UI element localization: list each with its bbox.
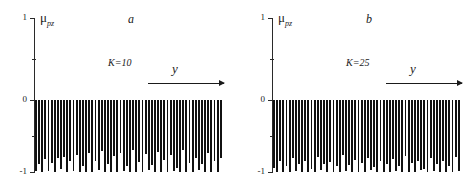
bar xyxy=(452,100,454,172)
x-axis-arrow-group-a: y xyxy=(148,63,224,89)
bar xyxy=(116,100,118,172)
k-annotation-a: K=10 xyxy=(108,57,131,68)
bar xyxy=(51,100,53,163)
bar xyxy=(76,100,78,155)
bar xyxy=(354,100,356,160)
bar xyxy=(85,100,87,172)
bar xyxy=(163,100,165,160)
figure-root: 1 0 -1 μpz a K=10 y 1 0 -1 μpz b K=25 y xyxy=(0,0,476,185)
bar xyxy=(60,100,62,169)
bar xyxy=(210,100,212,172)
bar xyxy=(214,100,216,161)
bar xyxy=(386,100,388,164)
bar-series-a xyxy=(35,100,223,173)
bar xyxy=(311,100,313,169)
bar xyxy=(329,100,331,162)
bar xyxy=(176,100,178,168)
bar xyxy=(113,100,115,156)
x-axis-label-a: y xyxy=(172,61,178,77)
bar xyxy=(383,100,385,172)
bar xyxy=(389,100,391,172)
bar xyxy=(82,100,84,166)
bar xyxy=(44,100,46,159)
bar xyxy=(179,100,181,172)
bar xyxy=(455,100,457,157)
bar xyxy=(301,100,303,172)
bar xyxy=(333,100,335,172)
bar xyxy=(91,100,93,172)
bar xyxy=(307,100,309,172)
bar xyxy=(63,100,65,157)
y-tick-label-bottom-a: -1 xyxy=(5,166,27,176)
chart-panel-b: 1 0 -1 μpz b K=25 y xyxy=(238,0,476,185)
bar xyxy=(433,100,435,171)
bar xyxy=(88,100,90,153)
bar xyxy=(376,100,378,172)
chart-panel-a: 1 0 -1 μpz a K=10 y xyxy=(0,0,238,185)
bar xyxy=(439,100,441,172)
y-axis-title-main-b: μ xyxy=(278,10,285,25)
bar xyxy=(142,100,144,172)
y-tick-label-top-a: 1 xyxy=(5,12,27,22)
bar xyxy=(217,100,219,172)
bar xyxy=(107,100,109,164)
bar xyxy=(110,100,112,172)
bar xyxy=(427,100,429,172)
bar xyxy=(182,100,184,150)
bar xyxy=(48,100,50,171)
bar xyxy=(414,100,416,172)
bar xyxy=(286,100,288,166)
bar xyxy=(148,100,150,170)
bar xyxy=(185,100,187,172)
bar xyxy=(192,100,194,172)
bar xyxy=(204,100,206,172)
bar xyxy=(423,100,425,169)
bar xyxy=(207,100,209,153)
k-annotation-b: K=25 xyxy=(346,57,369,68)
bar xyxy=(57,100,59,158)
y-tick-label-zero-a: 0 xyxy=(5,94,27,104)
bar xyxy=(66,100,68,172)
bar xyxy=(339,100,341,172)
bar xyxy=(314,100,316,172)
y-axis-title-main-a: μ xyxy=(40,10,47,25)
bar xyxy=(126,100,128,166)
bar xyxy=(326,100,328,172)
bar xyxy=(420,100,422,170)
bar xyxy=(401,100,403,172)
x-axis-arrow-line-a xyxy=(148,83,224,84)
bar xyxy=(151,100,153,165)
bar xyxy=(135,100,137,172)
bar xyxy=(405,100,407,156)
bar xyxy=(411,100,413,163)
bar xyxy=(154,100,156,172)
bar xyxy=(69,100,71,161)
x-axis-arrow-group-b: y xyxy=(386,63,462,89)
bar xyxy=(448,100,450,166)
y-tick-major-top-a xyxy=(30,18,35,19)
bar xyxy=(361,100,363,163)
bar xyxy=(220,100,222,158)
bar xyxy=(317,100,319,157)
bar xyxy=(38,100,40,164)
panel-letter-a: a xyxy=(128,12,134,27)
bar xyxy=(173,100,175,171)
bar-series-b xyxy=(273,100,461,173)
bar xyxy=(98,100,100,170)
bar xyxy=(323,100,325,164)
bar xyxy=(370,100,372,170)
x-axis-label-b: y xyxy=(410,61,416,77)
bar xyxy=(289,100,291,172)
x-axis-arrow-line-b xyxy=(386,83,462,84)
bar xyxy=(373,100,375,167)
bar xyxy=(104,100,106,172)
bar xyxy=(364,100,366,172)
bar xyxy=(430,100,432,158)
panel-letter-b: b xyxy=(366,12,372,27)
y-tick-label-zero-b: 0 xyxy=(243,94,265,104)
bar xyxy=(170,100,172,155)
bar xyxy=(436,100,438,164)
bar xyxy=(351,100,353,172)
bar xyxy=(73,100,75,171)
bar xyxy=(395,100,397,171)
